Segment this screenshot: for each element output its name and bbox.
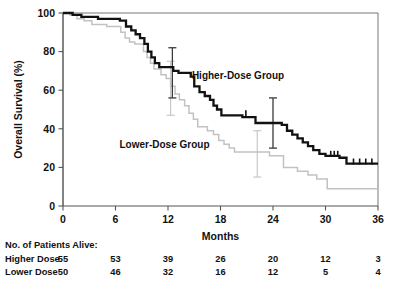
x-tick-label: 30 <box>320 213 332 225</box>
risk-count-cell: 55 <box>58 254 68 264</box>
risk-count-cell: 16 <box>215 267 225 277</box>
survival-curve-lower-dose <box>63 13 378 189</box>
y-tick-label: 40 <box>43 123 55 135</box>
risk-count-cell: 3 <box>375 254 380 264</box>
risk-row-label: Lower Dose <box>5 267 58 277</box>
error-bar-lower-dose <box>253 131 261 177</box>
risk-row-label: Higher Dose <box>5 254 60 264</box>
risk-count-cell: 46 <box>110 267 120 277</box>
risk-count-cell: 5 <box>323 267 328 277</box>
y-tick-label: 100 <box>37 7 55 19</box>
x-tick-label: 24 <box>267 213 279 225</box>
risk-count-cell: 12 <box>268 267 278 277</box>
series-label-higher-dose: Higher-Dose Group <box>192 70 284 81</box>
risk-count-cell: 53 <box>110 254 120 264</box>
y-tick-label: 60 <box>43 84 55 96</box>
x-tick-label: 36 <box>372 213 384 225</box>
km-plot-svg: 020406080100061218243036MonthsOverall Su… <box>0 0 396 290</box>
series-label-lower-dose: Lower-Dose Group <box>119 139 209 150</box>
risk-table-heading: No. of Patients Alive: <box>5 240 98 250</box>
x-tick-label: 6 <box>113 213 119 225</box>
chart-root: 020406080100061218243036MonthsOverall Su… <box>5 7 384 277</box>
x-tick-label: 12 <box>162 213 174 225</box>
survival-figure: 020406080100061218243036MonthsOverall Su… <box>0 0 396 290</box>
y-tick-label: 20 <box>43 161 55 173</box>
risk-count-cell: 4 <box>375 267 381 277</box>
x-tick-label: 0 <box>60 213 66 225</box>
risk-count-cell: 39 <box>163 254 173 264</box>
risk-count-cell: 50 <box>58 267 68 277</box>
risk-count-cell: 20 <box>268 254 278 264</box>
x-tick-label: 18 <box>215 213 227 225</box>
x-axis-title: Months <box>202 230 239 242</box>
risk-count-cell: 12 <box>320 254 330 264</box>
y-tick-label: 80 <box>43 45 55 57</box>
risk-count-cell: 26 <box>215 254 225 264</box>
y-tick-label: 0 <box>49 200 55 212</box>
risk-count-cell: 32 <box>163 267 173 277</box>
y-axis-title: Overall Survival (%) <box>12 60 24 159</box>
